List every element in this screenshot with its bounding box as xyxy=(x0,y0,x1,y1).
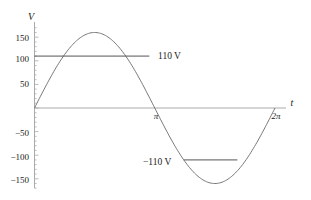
x-tick-pi: π xyxy=(154,111,159,121)
y-axis-label: V xyxy=(28,11,36,22)
y-axis-ticks xyxy=(35,28,39,188)
y-tick-150: 150 xyxy=(16,33,30,43)
label-neg-110v: −110 V xyxy=(143,157,171,167)
voltage-sine-chart: 150 100 50 −50 −100 −150 V t π 2π 110 V … xyxy=(0,0,311,200)
y-tick-neg100: −100 xyxy=(10,152,29,162)
x-axis-label: t xyxy=(291,97,294,108)
y-tick-100: 100 xyxy=(16,54,30,64)
y-tick-neg150: −150 xyxy=(10,175,29,185)
y-tick-neg50: −50 xyxy=(15,128,30,138)
y-tick-50: 50 xyxy=(20,79,30,89)
label-110v: 110 V xyxy=(158,51,181,61)
